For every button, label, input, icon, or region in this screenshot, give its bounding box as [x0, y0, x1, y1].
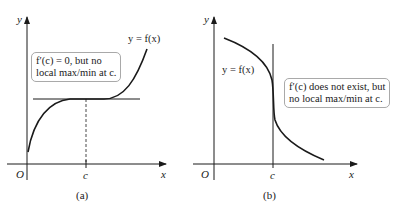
annotation-box-a: f′(c) = 0, but no local max/min at c.	[31, 52, 121, 82]
curve-label-b: y = f(x)	[222, 64, 255, 76]
curve-label-a: y = f(x)	[128, 33, 161, 45]
annotation-b-line1: f′(c) does not exist, but	[289, 81, 385, 93]
origin-label-b: O	[201, 168, 209, 180]
axis-x-label-a: x	[160, 168, 166, 180]
axis-y-label-a: y	[16, 13, 22, 25]
caption-b: (b)	[263, 189, 276, 202]
annotation-a-line1: f′(c) = 0, but no	[36, 55, 116, 67]
origin-label-a: O	[16, 168, 24, 180]
axis-y-label-b: y	[203, 13, 209, 25]
caption-a: (a)	[76, 189, 89, 202]
annotation-b-line2: no local max/min at c.	[289, 93, 385, 105]
tick-c-label-a: c	[83, 169, 88, 181]
panel-a: y x O c y = f(x) (a)	[7, 13, 166, 202]
annotation-box-b: f′(c) does not exist, but no local max/m…	[284, 78, 390, 108]
tick-c-label-b: c	[270, 169, 275, 181]
axis-x-label-b: x	[348, 168, 354, 180]
annotation-a-line2: local max/min at c.	[36, 67, 116, 79]
